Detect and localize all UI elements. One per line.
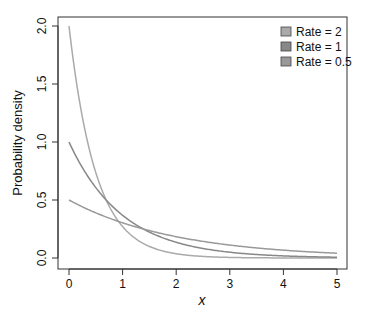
y-tick-label: 2.0 bbox=[35, 17, 49, 34]
legend-swatch bbox=[281, 42, 291, 51]
x-axis: 012345 bbox=[66, 269, 341, 291]
legend: Rate = 2Rate = 1Rate = 0.5 bbox=[281, 25, 352, 69]
y-tick-label: 1.5 bbox=[35, 75, 49, 92]
exponential-density-chart: 012345 0.00.51.01.52.0 Rate = 2Rate = 1R… bbox=[0, 0, 367, 320]
x-tick-label: 0 bbox=[66, 277, 73, 291]
x-tick-label: 1 bbox=[119, 277, 126, 291]
legend-swatch bbox=[281, 57, 291, 66]
x-tick-label: 3 bbox=[226, 277, 233, 291]
y-axis: 0.00.51.01.52.0 bbox=[35, 17, 58, 266]
y-axis-label: Probability density bbox=[10, 90, 25, 196]
y-tick-label: 1.0 bbox=[35, 133, 49, 150]
chart-container: 012345 0.00.51.01.52.0 Rate = 2Rate = 1R… bbox=[0, 0, 367, 320]
x-axis-label: x bbox=[198, 292, 207, 308]
y-tick-label: 0.5 bbox=[35, 191, 49, 208]
legend-label: Rate = 0.5 bbox=[296, 55, 352, 69]
legend-label: Rate = 2 bbox=[296, 25, 342, 39]
legend-swatch bbox=[281, 27, 291, 36]
y-tick-label: 0.0 bbox=[35, 249, 49, 266]
series-line-2 bbox=[69, 200, 337, 253]
x-tick-label: 4 bbox=[280, 277, 287, 291]
x-tick-label: 2 bbox=[173, 277, 180, 291]
series-line-1 bbox=[69, 142, 337, 257]
legend-label: Rate = 1 bbox=[296, 40, 342, 54]
x-tick-label: 5 bbox=[334, 277, 341, 291]
